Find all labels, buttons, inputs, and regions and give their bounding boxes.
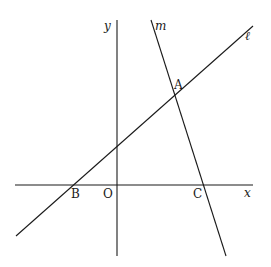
point-c-label: C	[193, 187, 202, 201]
point-b-label: B	[71, 187, 80, 201]
point-a-label: A	[173, 78, 183, 92]
coordinate-diagram: y m ℓ A B O C x	[0, 0, 271, 267]
y-axis-label: y	[103, 19, 111, 33]
origin-label: O	[103, 187, 113, 201]
x-axis-label: x	[244, 186, 251, 200]
line-m	[151, 20, 226, 256]
line-l	[16, 26, 253, 236]
line-m-label: m	[155, 19, 166, 33]
line-l-label: ℓ	[245, 29, 250, 43]
